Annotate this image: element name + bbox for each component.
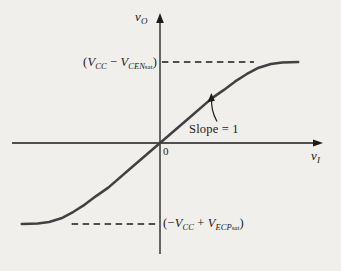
slope-label: Slope = 1 — [189, 122, 239, 137]
lower-open-paren: (− — [163, 216, 175, 230]
y-axis-subscript: O — [141, 16, 148, 26]
upper-operator: − — [107, 55, 121, 69]
transfer-characteristic-figure: vO vI 0 (VCC − VCENsat) (−VCC + VECPsat)… — [0, 0, 341, 271]
upper-saturation-label: (VCC − VCENsat) — [83, 55, 157, 75]
lower-close-paren: ) — [239, 216, 243, 230]
upper-vcc-subscript: CC — [95, 61, 106, 71]
upper-vcesat-subscript: CEN — [128, 61, 145, 71]
y-axis-arrowhead-icon — [156, 13, 164, 23]
x-axis-subscript: I — [317, 155, 320, 165]
lower-vcc-subscript: CC — [182, 222, 193, 232]
upper-sat-subscript: sat — [145, 63, 153, 71]
lower-vecsat-symbol: V — [208, 216, 216, 230]
lower-vecsat-subscript: ECP — [216, 222, 232, 232]
lower-saturation-label: (−VCC + VECPsat) — [163, 216, 244, 236]
upper-close-paren: ) — [153, 55, 157, 69]
x-axis-label: vI — [311, 148, 320, 168]
lower-operator: + — [194, 216, 208, 230]
x-axis-arrowhead-icon — [313, 139, 323, 146]
y-axis-label: vO — [135, 9, 147, 29]
origin-label: 0 — [163, 144, 169, 159]
